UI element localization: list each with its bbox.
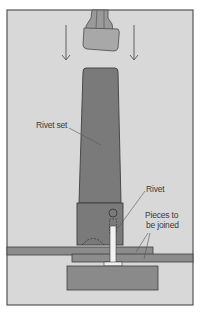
anvil <box>67 266 158 290</box>
riveting-diagram <box>0 0 200 314</box>
rivet <box>110 226 116 264</box>
bottom-plate <box>72 254 193 262</box>
label-rivet-set: Rivet set <box>36 120 67 130</box>
rivet-head <box>104 262 122 266</box>
label-pieces-line2: be joined <box>146 220 179 230</box>
rivet-head-recess <box>109 209 117 217</box>
label-rivet: Rivet <box>146 184 164 194</box>
rivet-set <box>79 68 121 203</box>
label-pieces-line1: Pieces to <box>145 210 178 220</box>
hammer-head <box>83 28 119 51</box>
